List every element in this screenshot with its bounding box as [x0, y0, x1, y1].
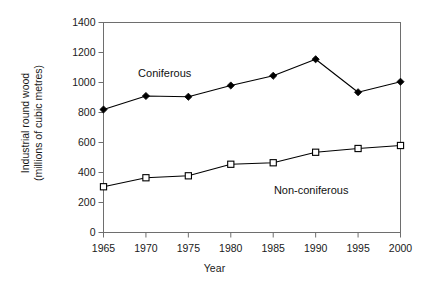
data-point-marker[interactable] [270, 72, 277, 79]
data-point-marker[interactable] [227, 82, 234, 89]
x-axis-tick-label: 1990 [294, 242, 338, 254]
y-axis-tick-label: 1400 [56, 16, 96, 28]
data-point-marker[interactable] [143, 175, 149, 181]
x-axis-tick-label: 1995 [336, 242, 380, 254]
chart-figure: Industrial round wood (millions of cubic… [0, 0, 429, 296]
y-axis-tick-label: 200 [56, 196, 96, 208]
data-point-marker[interactable] [270, 160, 276, 166]
y-axis-tick-label: 400 [56, 166, 96, 178]
y-axis-tick-label: 1200 [56, 46, 96, 58]
x-axis-tick-label: 1965 [82, 242, 126, 254]
data-point-marker[interactable] [142, 92, 149, 99]
data-point-marker[interactable] [397, 142, 403, 148]
data-point-marker[interactable] [355, 145, 361, 151]
data-point-marker[interactable] [397, 78, 404, 85]
x-axis-tick-label: 1975 [166, 242, 210, 254]
data-point-marker[interactable] [228, 161, 234, 167]
y-axis-tick-label: 800 [56, 106, 96, 118]
y-axis-tick-label: 1000 [56, 76, 96, 88]
y-axis-tick-label: 0 [56, 226, 96, 238]
data-point-marker[interactable] [100, 184, 106, 190]
y-axis-tick-label: 600 [56, 136, 96, 148]
x-axis-tick-label: 1985 [251, 242, 295, 254]
data-point-marker[interactable] [313, 149, 319, 155]
x-axis-tick-label: 1970 [124, 242, 168, 254]
x-axis-tick-label: 2000 [379, 242, 423, 254]
plot-frame [104, 23, 401, 233]
data-point-marker[interactable] [185, 93, 192, 100]
x-axis-tick-label: 1980 [209, 242, 253, 254]
series-label-non-coniferous: Non-coniferous [274, 184, 349, 196]
data-point-marker[interactable] [185, 173, 191, 179]
series-label-coniferous: Coniferous [138, 67, 191, 79]
